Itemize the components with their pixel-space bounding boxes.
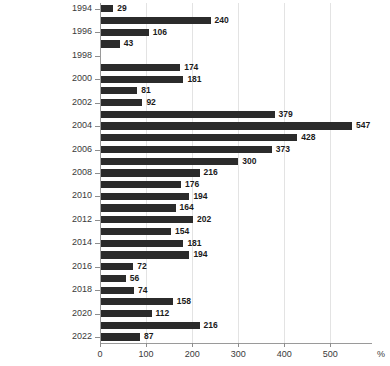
bar bbox=[100, 111, 275, 118]
bar bbox=[100, 29, 149, 36]
x-axis-label-500: 500 bbox=[323, 349, 338, 359]
bar-value-label: 81 bbox=[141, 85, 150, 96]
bar-row: 74 bbox=[100, 284, 358, 296]
bar-value-label: 158 bbox=[177, 296, 191, 307]
bar-value-label: 29 bbox=[117, 3, 126, 14]
x-axis-label-300: 300 bbox=[231, 349, 246, 359]
bar-value-label: 181 bbox=[187, 238, 201, 249]
x-axis-tick-300 bbox=[238, 343, 239, 347]
y-axis-label-2016: 2016 bbox=[72, 261, 92, 272]
bar bbox=[100, 169, 200, 176]
plot-area: 2924010643174181819237954742837330021617… bbox=[100, 3, 358, 343]
bar bbox=[100, 310, 152, 317]
bar bbox=[100, 275, 126, 282]
bar-row: 92 bbox=[100, 97, 358, 109]
bar-value-label: 92 bbox=[146, 97, 155, 108]
bar-row: 174 bbox=[100, 62, 358, 74]
bar-value-label: 181 bbox=[187, 74, 201, 85]
bar-row: 547 bbox=[100, 120, 358, 132]
y-axis-label-2018: 2018 bbox=[72, 284, 92, 295]
bar-row: 202 bbox=[100, 214, 358, 226]
x-axis-tick-200 bbox=[192, 343, 193, 347]
bar bbox=[100, 76, 183, 83]
y-axis-label-2022: 2022 bbox=[72, 331, 92, 342]
bar-value-label: 379 bbox=[279, 109, 293, 120]
bar-value-label: 373 bbox=[276, 144, 290, 155]
y-axis-label-2020: 2020 bbox=[72, 308, 92, 319]
bar-value-label: 240 bbox=[215, 15, 229, 26]
bar bbox=[100, 251, 189, 258]
bar-row: 181 bbox=[100, 73, 358, 85]
bar-value-label: 428 bbox=[301, 132, 315, 143]
bar-row: 194 bbox=[100, 249, 358, 261]
y-axis-label-1998: 1998 bbox=[72, 50, 92, 61]
bar-value-label: 216 bbox=[204, 167, 218, 178]
y-axis-tick-2002 bbox=[95, 103, 100, 104]
bar-value-label: 300 bbox=[242, 156, 256, 167]
y-axis-tick-2000 bbox=[95, 79, 100, 80]
y-axis-tick-1994 bbox=[95, 9, 100, 10]
bar-row: 216 bbox=[100, 320, 358, 332]
bar-row: 43 bbox=[100, 38, 358, 50]
y-axis-tick-2012 bbox=[95, 220, 100, 221]
bar bbox=[100, 158, 238, 165]
y-axis-tick-2016 bbox=[95, 267, 100, 268]
bar-value-label: 547 bbox=[356, 120, 370, 131]
bar-row: 72 bbox=[100, 261, 358, 273]
bar-row: 428 bbox=[100, 132, 358, 144]
bar bbox=[100, 216, 193, 223]
bar-value-label: 174 bbox=[184, 62, 198, 73]
x-axis-tick-400 bbox=[284, 343, 285, 347]
bar-value-label: 74 bbox=[138, 285, 147, 296]
bar bbox=[100, 263, 133, 270]
bar-row: 240 bbox=[100, 15, 358, 27]
bar bbox=[100, 17, 211, 24]
y-axis-tick-2010 bbox=[95, 196, 100, 197]
x-axis-unit-label: % bbox=[377, 349, 385, 359]
bar-row: 154 bbox=[100, 226, 358, 238]
bar-value-label: 176 bbox=[185, 179, 199, 190]
bar-row bbox=[100, 50, 358, 62]
bar-row: 194 bbox=[100, 191, 358, 203]
bar bbox=[100, 87, 137, 94]
bar-row: 300 bbox=[100, 155, 358, 167]
bar-value-label: 202 bbox=[197, 214, 211, 225]
bar bbox=[100, 181, 181, 188]
x-axis-tick-100 bbox=[146, 343, 147, 347]
y-axis-tick-2006 bbox=[95, 150, 100, 151]
x-axis-label-400: 400 bbox=[277, 349, 292, 359]
bar-value-label: 106 bbox=[153, 27, 167, 38]
bar-row: 164 bbox=[100, 202, 358, 214]
bar-value-label: 164 bbox=[180, 202, 194, 213]
bar-row: 87 bbox=[100, 331, 358, 343]
y-axis-tick-2018 bbox=[95, 290, 100, 291]
y-axis-tick-1998 bbox=[95, 56, 100, 57]
bar bbox=[100, 204, 176, 211]
bar-value-label: 194 bbox=[193, 191, 207, 202]
y-axis-label-1994: 1994 bbox=[72, 3, 92, 14]
y-axis-label-2002: 2002 bbox=[72, 97, 92, 108]
x-axis-label-100: 100 bbox=[139, 349, 154, 359]
bar-row: 81 bbox=[100, 85, 358, 97]
bar bbox=[100, 240, 183, 247]
bar-row: 373 bbox=[100, 144, 358, 156]
bar-row: 216 bbox=[100, 167, 358, 179]
bar-row: 176 bbox=[100, 179, 358, 191]
y-axis-tick-2020 bbox=[95, 314, 100, 315]
y-axis-tick-2014 bbox=[95, 243, 100, 244]
y-axis-label-2000: 2000 bbox=[72, 73, 92, 84]
y-axis-tick-2004 bbox=[95, 126, 100, 127]
y-axis-label-2012: 2012 bbox=[72, 214, 92, 225]
bar bbox=[100, 5, 113, 12]
bar bbox=[100, 228, 171, 235]
y-axis-tick-1996 bbox=[95, 32, 100, 33]
bar-value-label: 112 bbox=[156, 308, 170, 319]
bar-row: 106 bbox=[100, 26, 358, 38]
bar bbox=[100, 134, 297, 141]
bar-value-label: 154 bbox=[175, 226, 189, 237]
bar-value-label: 72 bbox=[137, 261, 146, 272]
y-axis-label-2010: 2010 bbox=[72, 190, 92, 201]
y-axis-label-2014: 2014 bbox=[72, 237, 92, 248]
bar bbox=[100, 64, 180, 71]
bar bbox=[100, 287, 134, 294]
